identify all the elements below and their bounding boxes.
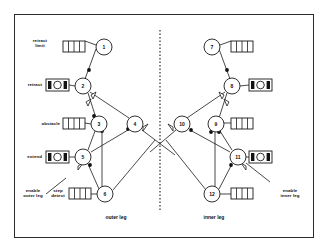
region-label-inner-leg: inner leg [192,214,236,220]
place-buffer-obstacle-inner [231,118,253,129]
svg-text:2: 2 [82,83,85,89]
label-retract-limit: retract limit [26,38,54,48]
svg-text:5: 5 [82,154,85,160]
label-step-detect: step detect [48,188,68,198]
transition-node: 5 [75,149,91,165]
svg-text:10: 10 [179,121,185,127]
svg-text:1: 1 [103,44,106,50]
svg-text:7: 7 [211,44,214,50]
place-buffer-step-detect-inner [231,188,253,199]
svg-text:8: 8 [231,83,234,89]
place-buffer-retract-limit-inner [231,41,253,52]
svg-text:4: 4 [134,121,137,127]
label-retract: retract [8,82,42,87]
transition-node: 3 [91,116,107,132]
transition-node: 9 [208,116,224,132]
svg-text:6: 6 [104,191,107,197]
place-actuator-retract-outer [46,79,69,91]
transition-node: 2 [75,78,91,94]
svg-text:3: 3 [98,121,101,127]
transition-node: 12 [204,186,220,202]
place-actuator-retract-inner [249,79,272,91]
transition-node: 4 [127,116,143,132]
place-actuator-extend-inner [249,151,272,163]
label-enable-outer-leg: enable outer leg [18,188,48,198]
label-enable-inner-leg: enable inner leg [274,188,306,198]
place-buffer-retract-limit [63,41,85,52]
svg-text:11: 11 [235,154,241,160]
transition-node: 7 [204,39,220,55]
place-actuator-extend-outer [46,151,69,163]
label-obstacle: obstacle [16,121,60,126]
transition-node: 6 [97,186,113,202]
place-buffer-step-detect [69,188,91,199]
transition-node: 10 [174,116,190,132]
transition-node: 8 [224,78,240,94]
label-extend: extend [10,154,42,159]
svg-text:9: 9 [215,121,218,127]
region-label-outer-leg: outer leg [94,214,138,220]
transition-node: 1 [96,39,112,55]
transition-node: 11 [230,149,246,165]
diagram-canvas: .edge{stroke:#1a1a1a;stroke-width:.8;fil… [0,0,328,252]
svg-text:12: 12 [209,191,215,197]
place-buffer-obstacle [63,118,85,129]
